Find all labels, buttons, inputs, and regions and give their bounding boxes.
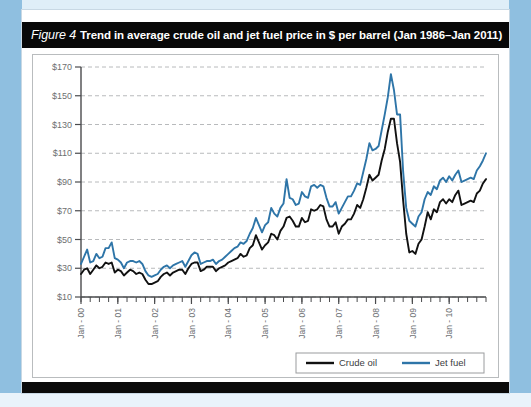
x-axis-tick-label: Jan - 02 <box>150 308 160 339</box>
figure-title: Trend in average crude oil and jet fuel … <box>80 29 502 41</box>
y-axis-tick-label: $70 <box>57 206 72 216</box>
y-axis-tick-label: $50 <box>57 235 72 245</box>
y-axis-tick-label: $130 <box>52 120 72 130</box>
figure-container: Figure 4Trend in average crude oil and j… <box>22 10 509 393</box>
x-axis-tick-label: Jan - 03 <box>187 308 197 339</box>
page-edge-top <box>0 0 531 10</box>
x-axis-tick-label: Jan - 06 <box>297 308 307 339</box>
figure-root: Figure 4Trend in average crude oil and j… <box>0 0 531 407</box>
legend-label-crude-oil: Crude oil <box>339 357 377 368</box>
page-edge-bottom <box>0 393 531 407</box>
figure-caption: Figure 4Trend in average crude oil and j… <box>22 28 502 42</box>
x-axis-tick-label: Jan - 05 <box>260 308 270 339</box>
y-axis-tick-label: $150 <box>52 91 72 101</box>
figure-number: Figure 4 <box>31 28 80 42</box>
y-axis-tick-label: $90 <box>57 177 72 187</box>
x-axis-tick-label: Jan - 10 <box>444 308 454 339</box>
y-axis-tick-label: $30 <box>57 263 72 273</box>
x-axis-tick-label: Jan - 01 <box>113 308 123 339</box>
page-edge-left <box>0 0 22 407</box>
x-axis-tick-label: Jan - 04 <box>223 308 233 339</box>
x-axis-tick-label: Jan - 08 <box>371 308 381 339</box>
x-axis-tick-label: Jan - 09 <box>408 308 418 339</box>
y-axis-tick-label: $110 <box>53 148 72 158</box>
x-axis-tick-label: Jan - 00 <box>76 308 86 339</box>
line-chart: $10$30$50$70$90$110$130$150$170Jan - 00J… <box>33 55 498 377</box>
chart-panel: $10$30$50$70$90$110$130$150$170Jan - 00J… <box>32 54 499 378</box>
y-axis-tick-label: $10 <box>57 292 72 302</box>
figure-footer-band <box>22 382 509 393</box>
page-edge-right <box>509 0 531 407</box>
legend-label-jet-fuel: Jet fuel <box>435 357 466 368</box>
x-axis-tick-label: Jan - 07 <box>334 308 344 339</box>
figure-header-band: Figure 4Trend in average crude oil and j… <box>22 22 509 48</box>
series-line-jet-fuel <box>81 74 486 277</box>
y-axis-tick-label: $170 <box>52 62 72 72</box>
